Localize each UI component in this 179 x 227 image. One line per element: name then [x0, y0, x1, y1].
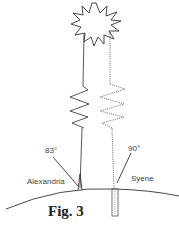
pointer-90 — [117, 153, 131, 183]
eratosthenes-diagram — [0, 0, 179, 227]
ray-syene — [100, 32, 125, 190]
sun-icon — [71, 3, 121, 46]
angle-label-syene: 90° — [128, 144, 140, 153]
city-label-alexandria: Alexandria — [27, 177, 65, 186]
city-label-syene: Syene — [131, 174, 154, 183]
angle-label-alexandria: 83° — [45, 146, 57, 155]
figure-caption: Fig. 3 — [48, 203, 84, 220]
ray-alexandria — [70, 34, 89, 188]
earth-surface — [6, 189, 179, 209]
